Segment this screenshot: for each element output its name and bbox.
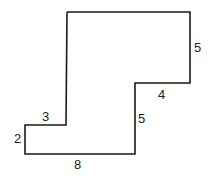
label-left-step: 3: [42, 110, 49, 123]
label-inner-side: 5: [138, 112, 145, 125]
label-step-top: 4: [158, 88, 165, 101]
polygon-figure: [0, 0, 212, 181]
label-right-side: 5: [194, 41, 201, 54]
label-bottom: 8: [74, 158, 81, 171]
polygon-outline: [25, 12, 190, 154]
label-left-side: 2: [14, 132, 21, 145]
